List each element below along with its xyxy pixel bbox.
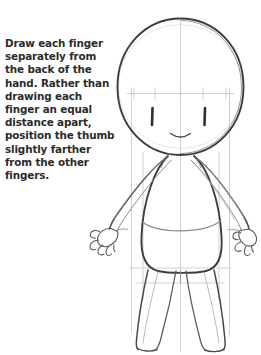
left-hand-finger-3	[106, 247, 111, 256]
instruction-text: Draw each finger separately from the bac…	[5, 37, 117, 182]
torso-group	[141, 154, 221, 273]
torso-waist-line	[143, 221, 221, 231]
left-leg-outer	[136, 270, 148, 350]
right-hand-finger-1	[235, 242, 241, 251]
right-arm-inner-edge	[191, 160, 242, 231]
left-hand	[90, 228, 128, 256]
right-hand-finger-2	[244, 247, 250, 256]
left-arm-inner-edge	[117, 160, 172, 232]
right-leg-outer	[214, 270, 225, 350]
left-foot	[138, 349, 158, 352]
left-hand-finger-4	[114, 245, 115, 252]
left-eye-mark	[152, 108, 153, 125]
right-hand-finger-3	[252, 246, 254, 253]
face-marks	[152, 108, 205, 137]
tutorial-image: Draw each finger separately from the bac…	[0, 0, 261, 355]
right-eye-mark	[205, 108, 206, 125]
right-hand	[228, 229, 257, 256]
left-hand-palm	[97, 228, 118, 247]
right-arm-light-sketch-a	[198, 159, 244, 217]
right-hand-palm	[239, 229, 257, 246]
torso-outline	[141, 156, 221, 273]
left-arm	[110, 157, 172, 232]
right-foot	[205, 350, 224, 352]
